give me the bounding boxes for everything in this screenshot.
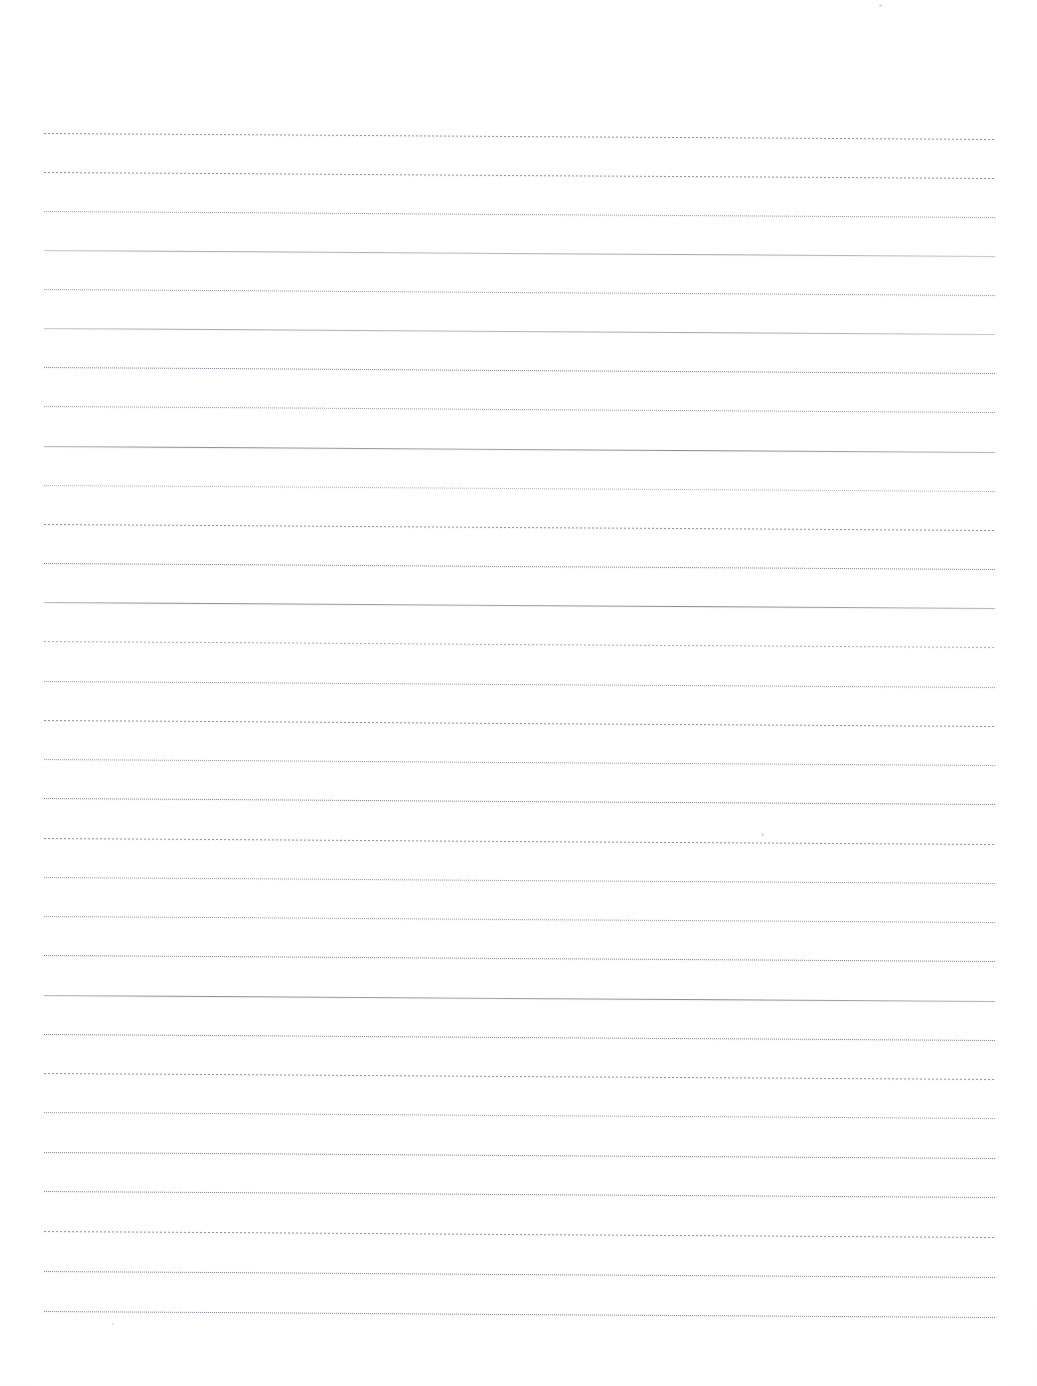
ruled-line bbox=[44, 289, 995, 297]
ruled-line bbox=[44, 759, 995, 767]
ruled-line bbox=[44, 406, 995, 414]
ruled-line bbox=[44, 172, 995, 180]
ruled-line bbox=[44, 367, 995, 375]
scanned-page bbox=[0, 0, 1037, 1386]
ruled-line bbox=[44, 1231, 995, 1239]
ruled-line bbox=[44, 328, 995, 336]
ruled-lines-layer bbox=[0, 0, 1037, 1386]
ruled-line bbox=[44, 877, 995, 885]
ruled-line bbox=[44, 446, 995, 454]
ruled-line bbox=[44, 838, 995, 846]
ruled-line bbox=[44, 995, 995, 1003]
ruled-line bbox=[44, 720, 995, 728]
ruled-line bbox=[44, 1112, 995, 1120]
ruled-line bbox=[44, 1311, 995, 1319]
ruled-line bbox=[44, 641, 995, 649]
ruled-line bbox=[44, 1271, 995, 1279]
ruled-line bbox=[44, 602, 995, 610]
ruled-line bbox=[44, 1152, 995, 1160]
ruled-line bbox=[44, 133, 995, 141]
ruled-line bbox=[44, 1034, 995, 1042]
ruled-line bbox=[44, 798, 995, 806]
ruled-line bbox=[44, 916, 995, 924]
ruled-line bbox=[44, 681, 995, 689]
ruled-line bbox=[44, 955, 995, 963]
ruled-line bbox=[44, 250, 995, 258]
ruled-line bbox=[44, 563, 995, 571]
ruled-line bbox=[44, 1073, 995, 1081]
ruled-line bbox=[44, 211, 995, 219]
ruled-line bbox=[44, 524, 995, 532]
ruled-line bbox=[44, 485, 995, 493]
ruled-line bbox=[44, 1191, 995, 1199]
